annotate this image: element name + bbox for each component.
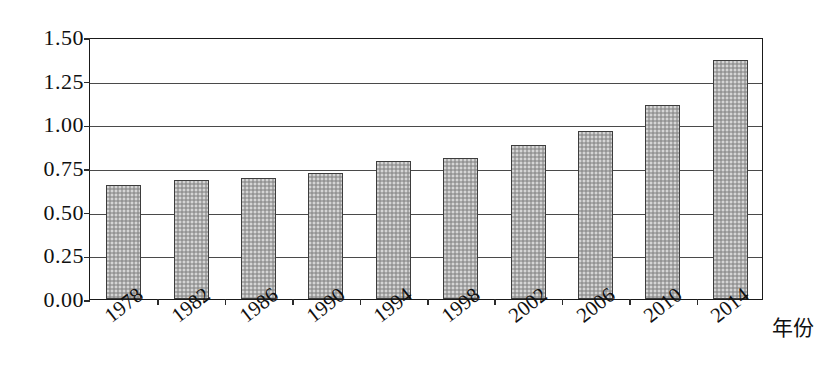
plot-area	[89, 38, 763, 300]
y-axis-tick	[84, 126, 90, 128]
y-axis-tick	[84, 213, 90, 215]
y-axis-tick-label: 1.50	[6, 27, 84, 49]
bar	[308, 173, 343, 299]
y-axis-tick	[84, 257, 90, 259]
bar	[174, 180, 209, 299]
y-axis-tick	[84, 38, 90, 40]
bar	[578, 131, 613, 299]
y-axis-tick-label: 0.50	[6, 202, 84, 224]
y-axis-tick-label: 1.25	[6, 71, 84, 93]
bar	[376, 161, 411, 299]
bars-layer	[90, 39, 762, 299]
x-axis-title: 年份	[772, 318, 814, 339]
y-axis-tick	[84, 82, 90, 84]
bar-chart: 0.000.250.500.751.001.251.50 19781982198…	[0, 0, 828, 385]
y-axis-tick-label: 0.75	[6, 158, 84, 180]
bar	[106, 185, 141, 299]
y-axis-tick	[84, 169, 90, 171]
y-axis-tick-label: 1.00	[6, 114, 84, 136]
bar	[443, 158, 478, 299]
bar	[645, 105, 680, 299]
y-axis-tick-labels: 0.000.250.500.751.001.251.50	[0, 0, 84, 385]
bar	[713, 60, 748, 299]
y-axis-tick-label: 0.25	[6, 245, 84, 267]
bar	[511, 145, 546, 299]
x-axis-tick-labels: 1978198219861990199419982002200620102014	[89, 300, 763, 385]
y-axis-tick-label: 0.00	[6, 289, 84, 311]
bar	[241, 178, 276, 299]
